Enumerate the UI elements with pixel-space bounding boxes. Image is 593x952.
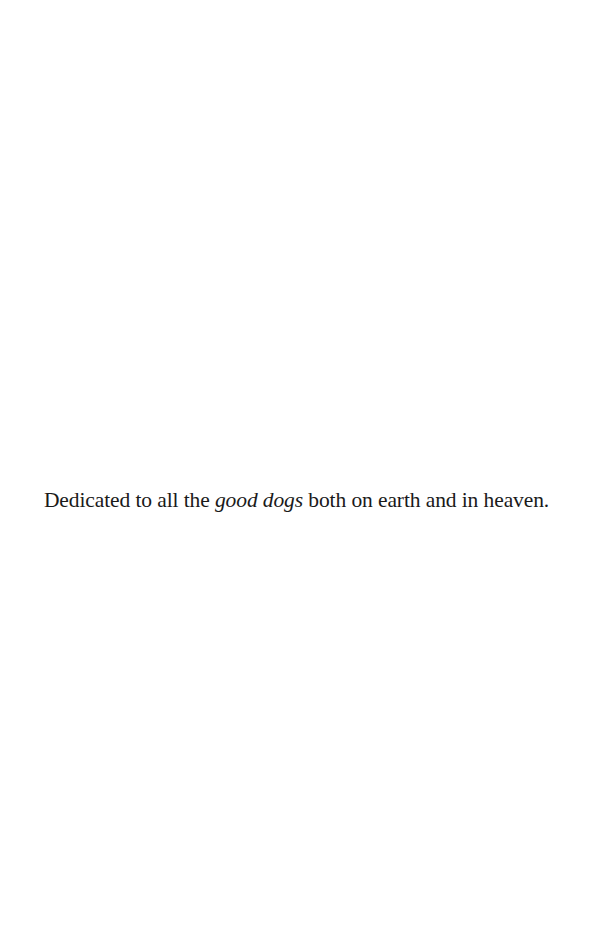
dedication-text-start: Dedicated to all the: [44, 488, 215, 512]
book-page: Dedicated to all the good dogs both on e…: [0, 0, 593, 952]
dedication-text: Dedicated to all the good dogs both on e…: [0, 488, 593, 513]
dedication-emphasis: good dogs: [215, 488, 303, 512]
dedication-text-end: both on earth and in heaven.: [303, 488, 549, 512]
